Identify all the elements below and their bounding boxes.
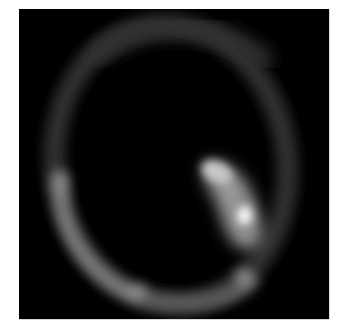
hotspot-peak xyxy=(230,195,258,235)
scan-rendering xyxy=(19,9,329,319)
scan-image xyxy=(19,9,330,320)
